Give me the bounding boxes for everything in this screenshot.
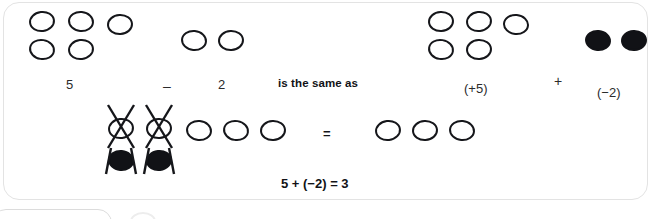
example-card bbox=[3, 2, 648, 200]
worked-example-figure: 5 – 2 is the same as (+5) + (−2) bbox=[0, 0, 657, 219]
group-label-minuend: 5 bbox=[66, 78, 73, 91]
equals-sign: = bbox=[323, 127, 331, 140]
operator-minus: – bbox=[163, 79, 171, 93]
group-label-positive-five: (+5) bbox=[464, 82, 487, 95]
zero-pair-cancel-mark-icon bbox=[142, 104, 176, 176]
group-label-negative-two: (−2) bbox=[597, 86, 620, 99]
result-equation: 5 + (−2) = 3 bbox=[281, 177, 349, 190]
operator-plus: + bbox=[554, 74, 562, 88]
is-the-same-as-label: is the same as bbox=[278, 78, 358, 90]
partial-counter-icon bbox=[130, 212, 156, 219]
group-label-subtrahend: 2 bbox=[218, 78, 225, 91]
next-example-card-edge bbox=[0, 209, 112, 219]
zero-pair-cancel-mark-icon bbox=[104, 104, 138, 176]
